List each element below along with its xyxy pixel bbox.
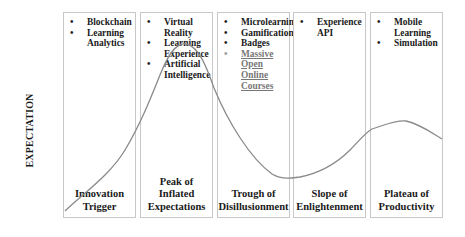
- technology-item: Badges: [224, 38, 287, 49]
- technology-item: Gamification: [224, 28, 287, 39]
- phase-label: Innovation Trigger: [64, 188, 135, 213]
- technology-item: Experience API: [300, 17, 363, 38]
- phase-label-line: Productivity: [371, 201, 442, 214]
- technology-item: Microlearning: [224, 17, 287, 28]
- phase-box-plateau-of-productivity: Mobile Learning Simulation Plateau of Pr…: [370, 12, 443, 218]
- technology-list: Microlearning Gamification Badges Massiv…: [218, 13, 289, 91]
- phase-label-line: Enlightenment: [294, 201, 365, 214]
- phase-box-peak-of-inflated-expectations: Virtual Reality Learning Experience Arti…: [140, 12, 213, 218]
- phase-label-line: Trigger: [64, 201, 135, 214]
- phase-label-line: Plateau of: [371, 188, 442, 201]
- phase-box-innovation-trigger: Blockchain Learning Analytics Innovation…: [63, 12, 136, 218]
- y-axis-label: EXPECTATION: [14, 70, 44, 190]
- technology-item: Artificial Intelligence: [147, 59, 210, 80]
- y-axis-label-text: EXPECTATION: [24, 93, 35, 167]
- phase-label-line: Innovation: [64, 188, 135, 201]
- technology-item: Blockchain: [70, 17, 133, 28]
- phase-box-trough-of-disillusionment: Microlearning Gamification Badges Massiv…: [217, 12, 290, 218]
- phase-label: Trough of Disillusionment: [218, 188, 289, 213]
- phase-box-slope-of-enlightenment: Experience API Slope of Enlightenment: [293, 12, 366, 218]
- technology-item-link[interactable]: Massive Open Online Courses: [224, 49, 287, 91]
- phase-label: Slope of Enlightenment: [294, 188, 365, 213]
- phase-label-line: Peak of: [141, 176, 212, 189]
- phase-label-line: Inflated: [141, 188, 212, 201]
- technology-item: Mobile Learning: [377, 17, 440, 38]
- technology-item: Learning Analytics: [70, 28, 133, 49]
- phase-label: Peak of Inflated Expectations: [141, 176, 212, 214]
- phase-label: Plateau of Productivity: [371, 188, 442, 213]
- phase-label-line: Trough of: [218, 188, 289, 201]
- technology-list: Experience API: [294, 13, 365, 38]
- phase-label-line: Expectations: [141, 201, 212, 214]
- phase-label-line: Disillusionment: [218, 201, 289, 214]
- technology-list: Mobile Learning Simulation: [371, 13, 442, 49]
- technology-list: Blockchain Learning Analytics: [64, 13, 135, 49]
- technology-list: Virtual Reality Learning Experience Arti…: [141, 13, 212, 81]
- technology-item: Virtual Reality: [147, 17, 210, 38]
- phase-label-line: Slope of: [294, 188, 365, 201]
- technology-item: Simulation: [377, 38, 440, 49]
- technology-item: Learning Experience: [147, 38, 210, 59]
